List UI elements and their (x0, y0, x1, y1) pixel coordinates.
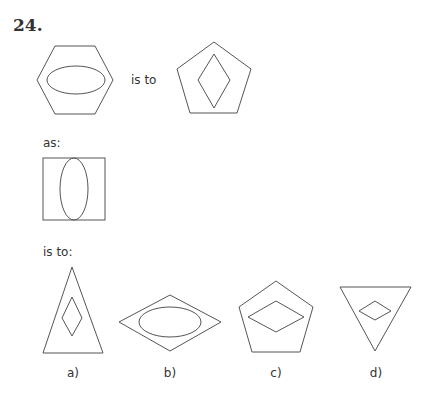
is-to-text: is to (131, 73, 156, 87)
premise-pentagon-figure (177, 42, 251, 113)
option-c-label[interactable]: c) (270, 366, 281, 380)
ellipse-shape (139, 307, 201, 337)
option-d-label[interactable]: d) (370, 366, 382, 380)
option-d-figure[interactable] (340, 287, 411, 351)
rhombus-shape (119, 295, 221, 351)
inverted-triangle-shape (340, 287, 411, 351)
option-c-figure[interactable] (239, 281, 313, 352)
hexagon-shape (37, 46, 113, 114)
is-to-colon-text: is to: (43, 245, 73, 259)
triangle-shape (43, 267, 103, 353)
option-a-figure[interactable] (43, 267, 103, 353)
as-text: as: (43, 136, 61, 150)
option-a-label[interactable]: a) (67, 366, 79, 380)
premise-hexagon-figure (37, 46, 113, 114)
pentagon-shape (239, 281, 313, 352)
figure-canvas (0, 0, 438, 404)
pentagon-shape (177, 42, 251, 113)
ellipse-shape (60, 158, 88, 220)
ellipse-shape (47, 66, 105, 94)
diamond-shape (359, 301, 391, 320)
diamond-shape (62, 297, 82, 336)
option-b-figure[interactable] (119, 295, 221, 351)
square-shape (43, 158, 105, 220)
diamond-shape (248, 301, 304, 332)
option-b-label[interactable]: b) (164, 366, 176, 380)
premise-square-figure (43, 158, 105, 220)
diamond-shape (198, 54, 230, 108)
